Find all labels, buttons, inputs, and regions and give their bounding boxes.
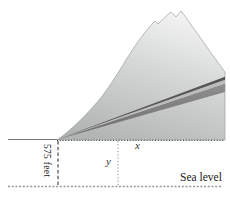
mountain-shape bbox=[57, 11, 225, 140]
mountain-diagram: 575 feet x y Sea level bbox=[0, 0, 230, 197]
altitude-label: 575 feet bbox=[42, 144, 52, 177]
sea-level-label: Sea level bbox=[180, 171, 222, 183]
y-height-label: y bbox=[105, 155, 111, 167]
figure-canvas: 575 feet x y Sea level bbox=[0, 0, 230, 197]
x-distance-label: x bbox=[134, 139, 140, 151]
